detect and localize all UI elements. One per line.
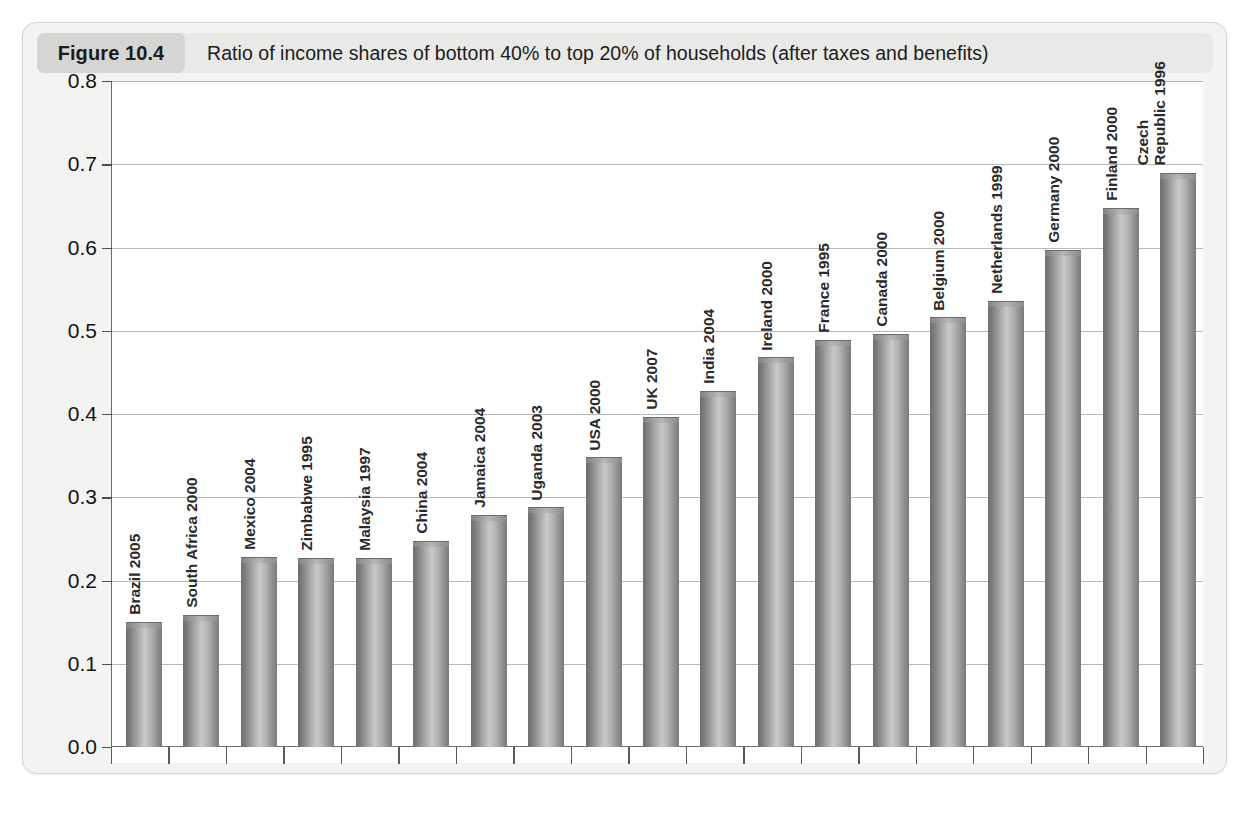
bar-category-label: Belgium 2000 [932, 211, 949, 311]
bar-top-cap [413, 542, 449, 547]
x-axis-tick [801, 747, 802, 764]
x-axis-tick [168, 747, 169, 764]
bar[interactable]: Ireland 2000 [758, 357, 794, 747]
figure-title: Ratio of income shares of bottom 40% to … [207, 42, 989, 65]
bar[interactable]: Jamaica 2004 [471, 515, 507, 747]
bar-category-label: South Africa 2000 [184, 477, 201, 607]
bar[interactable]: CzechRepublic 1996 [1160, 173, 1196, 747]
bar-category-label: France 1995 [817, 243, 834, 333]
bar-top-cap [988, 302, 1024, 307]
x-axis-tick [628, 747, 629, 764]
x-axis-tick [858, 747, 859, 764]
bar-top-cap [643, 418, 679, 423]
y-axis-tick-label: 0.0 [68, 735, 97, 759]
x-axis-tick [513, 747, 514, 764]
bar-category-label: CzechRepublic 1996 [1135, 61, 1168, 165]
x-axis-tick [916, 747, 917, 764]
figure-number-label: Figure 10.4 [58, 42, 165, 65]
x-axis-tick [226, 747, 227, 764]
figure-header: Figure 10.4 Ratio of income shares of bo… [37, 33, 1213, 73]
y-axis-tick-label: 0.8 [68, 69, 97, 93]
bar[interactable]: South Africa 2000 [183, 615, 219, 747]
bar-category-label: India 2004 [702, 309, 719, 384]
x-axis-tick [283, 747, 284, 764]
bar[interactable]: Uganda 2003 [528, 507, 564, 747]
bar-top-cap [528, 508, 564, 513]
bar-category-label: Germany 2000 [1047, 137, 1064, 243]
bar-category-label: Mexico 2004 [242, 459, 259, 550]
y-axis-tick-label: 0.6 [68, 236, 97, 260]
bar-category-label: Ireland 2000 [759, 261, 776, 351]
bar-top-cap [183, 616, 219, 621]
bar-top-cap [930, 318, 966, 323]
figure-page: Figure 10.4 Ratio of income shares of bo… [0, 0, 1249, 824]
bar[interactable]: China 2004 [413, 541, 449, 747]
bar[interactable]: UK 2007 [643, 417, 679, 748]
bar[interactable]: Mexico 2004 [241, 557, 277, 747]
bar-category-label: Uganda 2003 [529, 405, 546, 501]
bars-group: Brazil 2005South Africa 2000Mexico 2004Z… [111, 81, 1203, 747]
x-axis-tick [1088, 747, 1089, 764]
bar-top-cap [586, 458, 622, 463]
x-axis-tick [1146, 747, 1147, 764]
bar[interactable]: Belgium 2000 [930, 317, 966, 747]
bar-category-label: Malaysia 1997 [357, 448, 374, 551]
bar-top-cap [758, 358, 794, 363]
bar-top-cap [700, 392, 736, 397]
bar-top-cap [471, 516, 507, 521]
bar-top-cap [126, 623, 162, 628]
figure-card: Figure 10.4 Ratio of income shares of bo… [22, 22, 1227, 774]
bar-top-cap [873, 335, 909, 340]
y-axis-tick-label: 0.7 [68, 152, 97, 176]
bar-category-label: USA 2000 [587, 379, 604, 450]
bar-category-label: Jamaica 2004 [472, 408, 489, 508]
bar[interactable]: Canada 2000 [873, 334, 909, 747]
bar[interactable]: USA 2000 [586, 457, 622, 747]
chart-area: 0.00.10.20.30.40.50.60.70.8 Brazil 2005S… [37, 81, 1213, 763]
y-axis-tick-label: 0.5 [68, 319, 97, 343]
x-axis-tick [456, 747, 457, 764]
x-axis-tick [111, 747, 112, 764]
y-axis-tick-labels: 0.00.10.20.30.40.50.60.70.8 [37, 81, 103, 763]
plot-canvas: Brazil 2005South Africa 2000Mexico 2004Z… [111, 81, 1203, 763]
x-axis-tick [1203, 747, 1204, 764]
bar[interactable]: Germany 2000 [1045, 250, 1081, 747]
bar-category-label: Zimbabwe 1995 [299, 436, 316, 551]
bar-category-label: China 2004 [414, 452, 431, 534]
bar[interactable]: Zimbabwe 1995 [298, 558, 334, 747]
y-axis-tick-label: 0.4 [68, 402, 97, 426]
x-axis-tick [398, 747, 399, 764]
bar[interactable]: Malaysia 1997 [356, 558, 392, 747]
bar-category-label: Brazil 2005 [127, 534, 144, 615]
bar-category-label: Netherlands 1999 [989, 165, 1006, 293]
x-axis-tick [1031, 747, 1032, 764]
y-axis-tick-label: 0.3 [68, 485, 97, 509]
bar-top-cap [241, 558, 277, 563]
bar-top-cap [1103, 209, 1139, 214]
bar-category-label: UK 2007 [644, 348, 661, 409]
x-axis-tick [341, 747, 342, 764]
figure-number-badge: Figure 10.4 [37, 33, 185, 73]
y-axis-tick-label: 0.1 [68, 652, 97, 676]
bar-top-cap [356, 559, 392, 564]
x-axis-tick [571, 747, 572, 764]
bar-top-cap [1160, 174, 1196, 179]
bar[interactable]: India 2004 [700, 391, 736, 747]
bar-top-cap [1045, 251, 1081, 256]
bar-category-label: Finland 2000 [1104, 107, 1121, 201]
bar-top-cap [298, 559, 334, 564]
y-axis-tick-label: 0.2 [68, 569, 97, 593]
bar[interactable]: Brazil 2005 [126, 622, 162, 747]
x-axis-tick [686, 747, 687, 764]
bar-top-cap [815, 341, 851, 346]
bar-category-label: Canada 2000 [874, 232, 891, 327]
x-axis-tick [973, 747, 974, 764]
bar[interactable]: France 1995 [815, 340, 851, 747]
bar[interactable]: Netherlands 1999 [988, 301, 1024, 747]
x-axis-tick [743, 747, 744, 764]
bar[interactable]: Finland 2000 [1103, 208, 1139, 747]
